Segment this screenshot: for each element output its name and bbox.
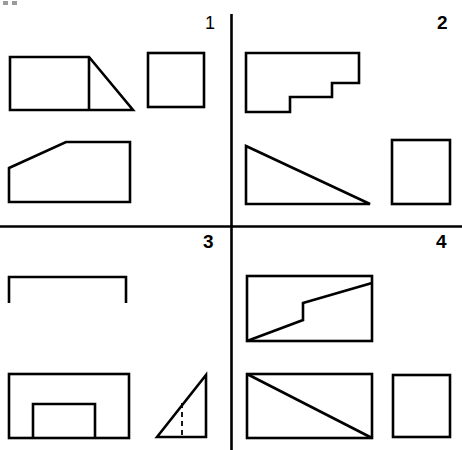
rectangle-with-diagonal	[247, 374, 372, 438]
right-triangle-large	[246, 146, 370, 204]
rectangle-with-right-triangle	[10, 57, 133, 110]
open-bracket	[9, 277, 126, 303]
rectangle-with-notch	[9, 374, 129, 438]
square-bottom-right-quadrant	[393, 375, 450, 437]
quadrant-label-2: 2	[437, 13, 448, 32]
trapezoid	[9, 142, 130, 202]
right-triangle-dashed	[157, 375, 206, 437]
figure-page: 1 2 3 4	[0, 0, 462, 450]
quadrant-label-3: 3	[203, 232, 214, 251]
rectangle-stepped-diagonal	[247, 276, 372, 341]
square-top-right-quadrant	[392, 140, 450, 204]
geometric-shapes-figure	[0, 0, 462, 450]
quadrant-label-4: 4	[436, 232, 447, 251]
quadrant-label-1: 1	[205, 14, 215, 32]
stepped-polygon	[246, 53, 359, 112]
square-top-left-quadrant	[148, 53, 204, 107]
scan-artifact	[3, 1, 17, 5]
